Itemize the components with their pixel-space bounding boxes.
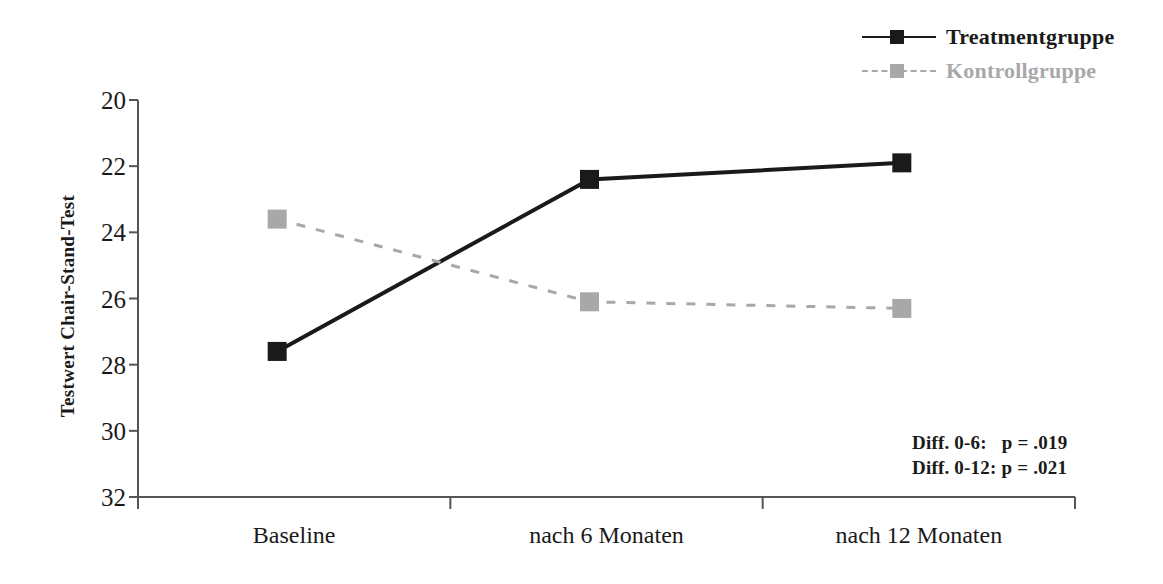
chart-canvas <box>0 0 1163 584</box>
data-point-marker <box>892 299 911 318</box>
data-point-marker <box>892 153 911 172</box>
data-point-marker <box>268 342 287 361</box>
x-tick-label: nach 12 Monaten <box>836 522 1003 549</box>
plot-area: Testwert Chair-Stand-Test 20222426283032… <box>0 0 1163 584</box>
chart-figure: Treatmentgruppe Kontrollgruppe Testwert … <box>0 0 1163 584</box>
series-line-treatmentgruppe <box>277 163 902 352</box>
annotation-diff-0-12: Diff. 0-12: p = .021 <box>912 457 1067 479</box>
x-tick-label: Baseline <box>253 522 336 549</box>
annotation-diff-0-6: Diff. 0-6: p = .019 <box>912 432 1067 454</box>
data-point-marker <box>580 292 599 311</box>
data-point-marker <box>580 170 599 189</box>
x-tick-label: nach 6 Monaten <box>529 522 684 549</box>
data-point-marker <box>268 210 287 229</box>
